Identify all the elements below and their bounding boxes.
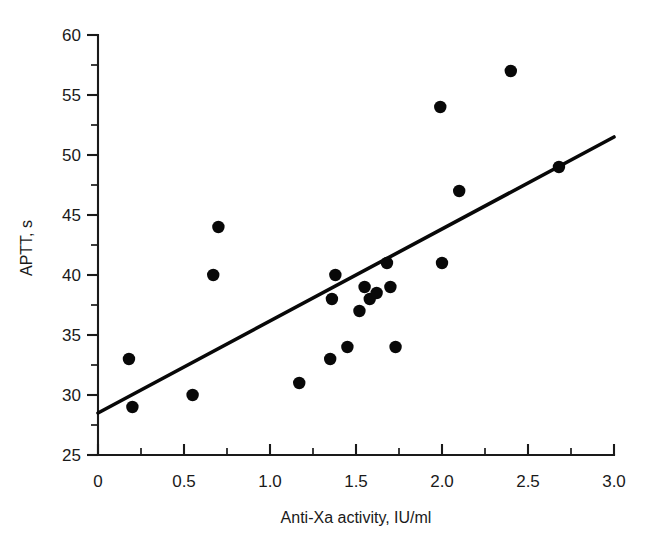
x-axis-tick-labels: 00.51.01.52.02.53.0 (93, 472, 626, 491)
scatter-plot-figure: 2530354045505560 00.51.01.52.02.53.0 Ant… (0, 0, 663, 544)
y-axis-title: APTT, s (18, 220, 35, 276)
data-point (553, 161, 565, 173)
data-point (123, 353, 135, 365)
data-point (370, 287, 382, 299)
y-tick-label: 60 (62, 26, 81, 45)
x-tick-label: 3.0 (602, 472, 626, 491)
y-tick-label: 55 (62, 86, 81, 105)
data-point (186, 389, 198, 401)
y-tick-label: 25 (62, 446, 81, 465)
data-point (389, 341, 401, 353)
regression-line (98, 137, 614, 413)
data-point (207, 269, 219, 281)
x-tick-label: 0.5 (172, 472, 196, 491)
data-point (324, 353, 336, 365)
data-point (358, 281, 370, 293)
y-axis-tick-labels: 2530354045505560 (62, 26, 81, 465)
y-tick-label: 45 (62, 206, 81, 225)
data-point (434, 101, 446, 113)
data-point (436, 257, 448, 269)
plot-canvas: 2530354045505560 00.51.01.52.02.53.0 Ant… (0, 0, 663, 544)
data-point (126, 401, 138, 413)
data-point (384, 281, 396, 293)
x-axis-title: Anti-Xa activity, IU/ml (281, 509, 432, 526)
data-point (329, 269, 341, 281)
axes-group (98, 35, 614, 455)
data-point (381, 257, 393, 269)
x-tick-label: 1.0 (258, 472, 282, 491)
x-axis-ticks (98, 444, 614, 455)
data-point (453, 185, 465, 197)
x-tick-label: 2.0 (430, 472, 454, 491)
x-tick-label: 0 (93, 472, 102, 491)
y-tick-label: 40 (62, 266, 81, 285)
y-tick-label: 30 (62, 386, 81, 405)
data-points-group (123, 65, 565, 413)
data-point (341, 341, 353, 353)
y-tick-label: 35 (62, 326, 81, 345)
data-point (326, 293, 338, 305)
y-tick-label: 50 (62, 146, 81, 165)
x-tick-label: 1.5 (344, 472, 368, 491)
data-point (505, 65, 517, 77)
data-point (293, 377, 305, 389)
data-point (212, 221, 224, 233)
data-point (353, 305, 365, 317)
y-axis-ticks (87, 35, 98, 455)
x-tick-label: 2.5 (516, 472, 540, 491)
regression-line-group (98, 137, 614, 413)
